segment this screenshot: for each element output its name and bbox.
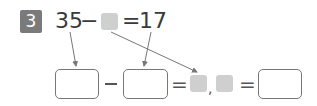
minus-sign-2 <box>105 83 117 85</box>
arrow-35-to-box1 <box>70 32 76 66</box>
answer-box-1[interactable] <box>55 69 99 99</box>
answer-box-3[interactable] <box>258 69 302 99</box>
gray-square-2 <box>216 75 233 92</box>
answer-box-2[interactable] <box>123 69 168 99</box>
gray-square-1 <box>190 75 207 92</box>
comma: , <box>208 78 212 98</box>
equals-sign-2: = <box>171 74 188 94</box>
equals-sign-3: = <box>239 74 256 94</box>
arrow-square-to-square <box>111 32 197 72</box>
